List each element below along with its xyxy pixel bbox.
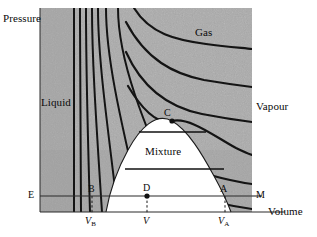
point-label-c: C	[164, 108, 171, 118]
y-axis-label: Pressure	[3, 13, 41, 24]
tick-label-v: V	[143, 216, 149, 226]
marker-d	[144, 193, 149, 198]
point-label-d: D	[143, 183, 150, 193]
tick-va-subscript: A	[224, 220, 229, 228]
marker-c	[169, 118, 174, 123]
point-label-m: M	[256, 190, 265, 200]
x-axis-label: Volume	[268, 206, 303, 217]
tick-label-va: VA	[218, 216, 229, 226]
point-label-b: B	[88, 184, 95, 194]
region-label-liquid: Liquid	[41, 97, 71, 108]
region-label-vapour: Vapour	[256, 101, 288, 112]
point-label-e: E	[28, 190, 34, 200]
pv-phase-diagram	[0, 0, 317, 237]
tick-label-vb: VB	[85, 216, 96, 226]
tick-v-symbol: V	[143, 215, 149, 226]
isotherm-2	[80, 8, 81, 212]
region-label-gas: Gas	[195, 27, 212, 38]
point-label-a: A	[220, 184, 227, 194]
tick-vb-subscript: B	[91, 220, 96, 228]
region-label-mixture: Mixture	[145, 146, 181, 157]
